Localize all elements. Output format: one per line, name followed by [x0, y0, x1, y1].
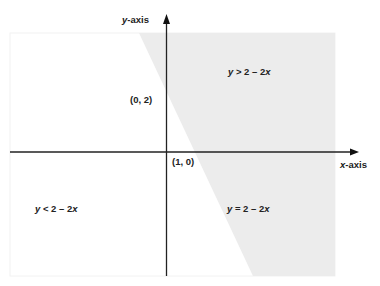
y-intercept-label: (0, 2)	[130, 94, 152, 105]
region-below-label: y < 2 – 2x	[34, 203, 78, 214]
x-axis-label: x-axis	[339, 159, 367, 170]
boundary-line-label: y = 2 – 2x	[226, 203, 270, 214]
region-above-label: y > 2 – 2x	[227, 66, 271, 77]
y-axis-label: y-axis	[121, 14, 149, 25]
x-axis-arrow-icon	[350, 149, 359, 156]
inequality-graph: y-axis x-axis (0, 2) (1, 0) y > 2 – 2x y…	[0, 0, 380, 286]
x-intercept-label: (1, 0)	[172, 156, 194, 167]
y-axis-arrow-icon	[163, 14, 170, 24]
